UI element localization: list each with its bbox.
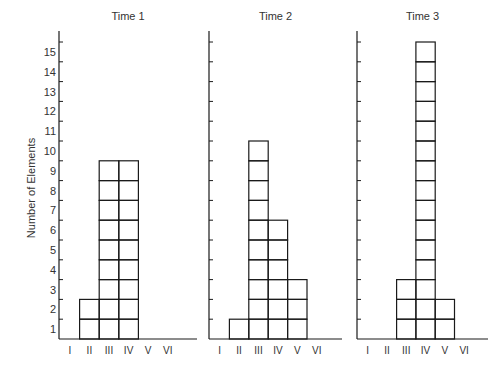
y-tick-label: 5 [50, 244, 56, 256]
element-box [416, 299, 435, 319]
element-box [416, 319, 435, 339]
element-box [397, 319, 416, 339]
element-box [229, 319, 248, 339]
element-box [397, 280, 416, 300]
element-box [249, 240, 268, 260]
x-category-label: IV [124, 345, 134, 356]
panel-title: Time 2 [259, 10, 292, 22]
element-box [288, 280, 307, 300]
element-box [119, 181, 139, 201]
element-box [435, 319, 454, 339]
element-box [416, 82, 435, 102]
x-category-label: VI [459, 345, 468, 356]
element-box [99, 319, 119, 339]
element-box [80, 319, 100, 339]
element-box [249, 141, 268, 161]
y-tick-label: 4 [50, 264, 56, 276]
element-box [249, 280, 268, 300]
element-box [416, 200, 435, 220]
element-box [249, 260, 268, 280]
element-box [99, 181, 119, 201]
element-box [249, 161, 268, 181]
x-category-label: VI [312, 345, 321, 356]
x-category-label: II [87, 345, 93, 356]
y-tick-label: 2 [50, 303, 56, 315]
x-category-label: II [236, 345, 242, 356]
y-tick-label: 15 [44, 46, 56, 58]
x-category-label: II [384, 345, 390, 356]
y-tick-label: 6 [50, 224, 56, 236]
x-category-label: V [442, 345, 449, 356]
element-box [416, 240, 435, 260]
element-box [99, 299, 119, 319]
element-box [416, 280, 435, 300]
element-box [268, 260, 287, 280]
element-box [268, 319, 287, 339]
x-category-label: VI [163, 345, 172, 356]
x-category-label: I [68, 345, 71, 356]
element-box [249, 181, 268, 201]
x-category-label: V [294, 345, 301, 356]
element-box [288, 299, 307, 319]
y-axis-label: Number of Elements [25, 138, 37, 238]
x-category-label: IV [421, 345, 431, 356]
y-tick-label: 7 [50, 204, 56, 216]
chart-svg: Time 1123456789101112131415IIIIIIIVVVITi… [0, 0, 504, 389]
element-box [268, 280, 287, 300]
y-tick-label: 8 [50, 185, 56, 197]
y-tick-label: 3 [50, 284, 56, 296]
x-category-label: V [145, 345, 152, 356]
element-box [119, 240, 139, 260]
y-tick-label: 9 [50, 165, 56, 177]
element-box [99, 240, 119, 260]
element-box [268, 220, 287, 240]
element-box [397, 299, 416, 319]
panel-title: Time 1 [111, 10, 144, 22]
element-box [249, 200, 268, 220]
element-box [99, 200, 119, 220]
element-box [119, 280, 139, 300]
element-box [99, 161, 119, 181]
element-box [416, 181, 435, 201]
x-category-label: I [366, 345, 369, 356]
element-box [416, 42, 435, 62]
element-box [99, 220, 119, 240]
element-box [99, 280, 119, 300]
element-box [416, 141, 435, 161]
element-box [416, 260, 435, 280]
y-tick-label: 13 [44, 86, 56, 98]
element-box [416, 62, 435, 82]
element-box [268, 240, 287, 260]
y-tick-label: 12 [44, 105, 56, 117]
x-category-label: III [254, 345, 262, 356]
element-box [288, 319, 307, 339]
element-box [99, 260, 119, 280]
y-tick-label: 1 [50, 323, 56, 335]
element-box [119, 161, 139, 181]
element-box [416, 121, 435, 141]
element-box [119, 299, 139, 319]
y-tick-label: 11 [45, 125, 56, 137]
element-box [119, 220, 139, 240]
x-category-label: I [218, 345, 221, 356]
element-box [268, 299, 287, 319]
panel-title: Time 3 [406, 10, 439, 22]
x-category-label: III [105, 345, 113, 356]
chart-area: Time 1123456789101112131415IIIIIIIVVVITi… [0, 0, 504, 389]
x-category-label: III [402, 345, 410, 356]
element-box [416, 220, 435, 240]
element-box [80, 299, 100, 319]
element-box [119, 260, 139, 280]
element-box [416, 161, 435, 181]
y-tick-label: 14 [44, 66, 56, 78]
y-tick-label: 10 [44, 145, 56, 157]
element-box [119, 319, 139, 339]
element-box [119, 200, 139, 220]
element-box [249, 220, 268, 240]
element-box [435, 299, 454, 319]
element-box [249, 299, 268, 319]
element-box [249, 319, 268, 339]
element-box [416, 101, 435, 121]
x-category-label: IV [273, 345, 283, 356]
